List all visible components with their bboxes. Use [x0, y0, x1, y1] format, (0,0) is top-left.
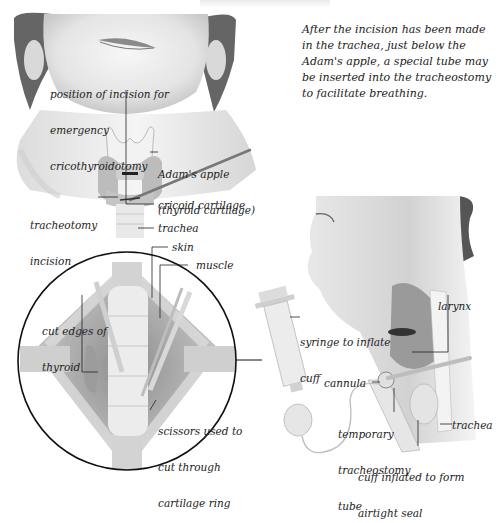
caption-line: in the trachea, just below the — [302, 38, 498, 54]
label-tracheotomy-incision: tracheotomy incision — [30, 195, 97, 291]
label-line: syringe to inflate — [300, 336, 390, 348]
caption-line: Adam's apple, a special tube may — [302, 54, 498, 70]
label-cut-edges-thyroid: cut edges of thyroid — [42, 301, 107, 397]
label-scissors: scissors used to cut through cartilage r… — [158, 401, 242, 523]
label-line: scissors used to — [158, 425, 242, 437]
label-line: cricothyroidotomy — [50, 160, 169, 172]
label-line: tracheotomy — [30, 219, 97, 231]
label-trachea-side: trachea — [452, 419, 493, 431]
label-line: cut through — [158, 461, 242, 473]
label-line: Adam's apple — [158, 168, 255, 180]
label-line: incision — [30, 255, 97, 267]
caption-line: After the incision has been made — [302, 22, 498, 38]
label-line: cut edges of — [42, 325, 107, 337]
label-trachea-front: trachea — [158, 222, 199, 234]
label-syringe: syringe to inflate cuff — [300, 312, 390, 408]
label-cannula: cannula — [324, 377, 366, 389]
label-line: emergency — [50, 124, 169, 136]
label-line: cartilage ring — [158, 497, 242, 509]
label-cricoid-cartilage: cricoid cartilage — [158, 199, 245, 211]
label-cuff: cuff inflated to form airtight seal — [358, 447, 464, 523]
label-muscle: muscle — [196, 259, 234, 271]
caption-line: be inserted into the tracheostomy — [302, 70, 498, 86]
label-line: position of incision for — [50, 88, 169, 100]
label-larynx: larynx — [438, 300, 471, 312]
label-line: cuff inflated to form — [358, 471, 464, 483]
label-line: temporary — [338, 428, 411, 440]
label-line: thyroid — [42, 361, 107, 373]
label-skin: skin — [172, 241, 194, 253]
caption-text: After the incision has been made in the … — [302, 22, 498, 102]
caption-line: to facilitate breathing. — [302, 86, 498, 102]
label-line: airtight seal — [358, 507, 464, 519]
label-incision-position: position of incision for emergency crico… — [50, 64, 169, 196]
